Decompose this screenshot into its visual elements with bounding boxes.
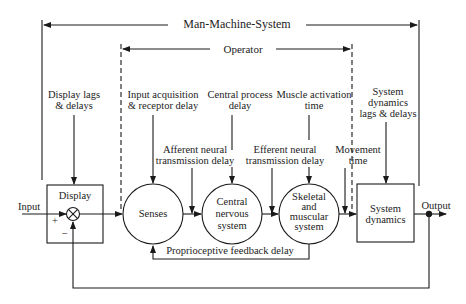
operator-label: Operator xyxy=(210,43,276,55)
skeletal-label-4: system xyxy=(279,221,339,233)
input-label: Input xyxy=(18,201,48,213)
afferent-label-2: transmission delay xyxy=(150,155,240,167)
cns-label-2: nervous xyxy=(202,208,262,220)
proprioceptive-feedback-label: Proprioceptive feedback delay xyxy=(160,245,300,257)
cns-label-1: Central xyxy=(202,196,262,208)
muscle-activation-label-2: time xyxy=(272,100,356,112)
cns-label-3: system xyxy=(202,220,262,232)
system-dynamics-label-2: dynamics xyxy=(357,214,414,226)
central-process-label-2: delay xyxy=(200,100,280,112)
output-label: Output xyxy=(416,200,456,212)
plus-sign: + xyxy=(50,215,60,227)
efferent-label-2: transmission delay xyxy=(240,155,330,167)
system-dynamics-lags-label-3: lags & delays xyxy=(356,108,420,120)
senses-label: Senses xyxy=(123,208,183,220)
summing-junction-icon xyxy=(67,208,80,221)
input-acquisition-label-2: & receptor delay xyxy=(118,100,208,112)
movement-label-2: time xyxy=(330,155,386,167)
minus-sign: − xyxy=(60,228,70,240)
display-lags-label-2: & delays xyxy=(34,100,114,112)
man-machine-system-title: Man-Machine-System xyxy=(168,18,306,30)
display-label: Display xyxy=(47,190,103,202)
